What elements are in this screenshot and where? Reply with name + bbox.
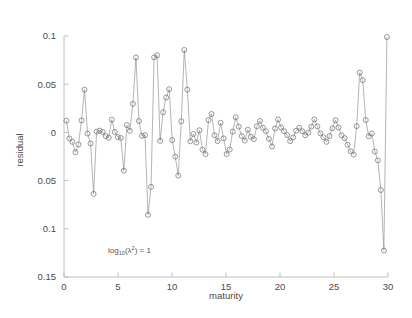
y-tick-label: 0.05	[38, 175, 57, 186]
x-tick-marks	[64, 273, 388, 278]
y-tick-label: 0.1	[43, 223, 56, 234]
annotation-log: log	[108, 246, 119, 255]
annotation-lambda: (λ	[125, 246, 132, 255]
x-tick-label: 20	[275, 281, 286, 292]
y-tick-marks	[64, 36, 69, 277]
y-tick-label: 0.05	[38, 79, 57, 90]
svg-text:log10(λ2) = 1: log10(λ2) = 1	[108, 245, 152, 256]
x-tick-label: 10	[167, 281, 178, 292]
x-tick-label: 30	[383, 281, 394, 292]
x-tick-label: 0	[61, 281, 66, 292]
figure-canvas: 0.10.0500.050.10.15 051015202530 residua…	[0, 0, 412, 318]
x-tick-label: 25	[329, 281, 340, 292]
y-tick-label: 0.15	[38, 271, 57, 282]
residual-plot: 0.10.0500.050.10.15 051015202530 residua…	[0, 0, 412, 318]
residual-markers	[64, 34, 390, 253]
annotation-tail: ) = 1	[135, 246, 152, 255]
y-tick-label: 0	[51, 127, 56, 138]
y-tick-labels: 0.10.0500.050.10.15	[38, 30, 57, 282]
y-tick-label: 0.1	[43, 30, 56, 41]
residual-line	[66, 37, 387, 251]
lambda-annotation: log10(λ2) = 1	[108, 245, 152, 256]
data-series-group	[64, 34, 390, 253]
x-tick-label: 5	[115, 281, 120, 292]
y-axis-title: residual	[14, 133, 25, 166]
x-axis-title: maturity	[209, 290, 243, 301]
